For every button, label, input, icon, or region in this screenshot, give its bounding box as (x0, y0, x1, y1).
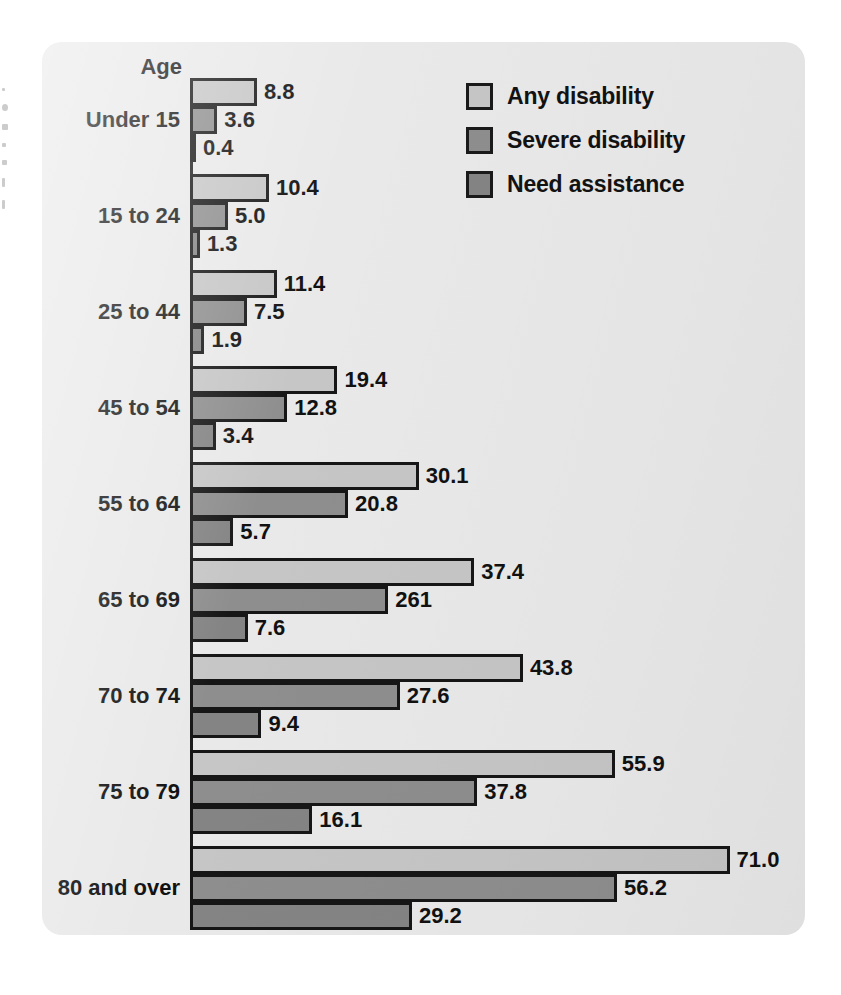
bar (190, 710, 261, 738)
bar-value-label: 261 (395, 587, 432, 613)
bar (190, 298, 247, 326)
bar (190, 394, 287, 422)
bar-row: 27.6 (190, 682, 805, 710)
bar-group: 80 and over71.056.229.2 (42, 846, 805, 930)
bar-row: 56.2 (190, 874, 805, 902)
category-label: 80 and over (42, 875, 180, 901)
bar-row: 7.5 (190, 298, 805, 326)
chart-panel: Age Any disabilitySevere disabilityNeed … (42, 42, 805, 935)
bar (190, 490, 348, 518)
bar-row: 29.2 (190, 902, 805, 930)
bar-value-label: 7.5 (254, 299, 285, 325)
bar (190, 202, 228, 230)
page-edge-artifact (0, 88, 10, 278)
bar-value-label: 37.4 (481, 559, 524, 585)
bar-group: 15 to 2410.45.01.3 (42, 174, 805, 258)
category-label: Under 15 (42, 107, 180, 133)
category-label: 75 to 79 (42, 779, 180, 805)
bar (190, 586, 388, 614)
bar-value-label: 1.9 (211, 327, 242, 353)
bar-value-label: 5.0 (235, 203, 266, 229)
bar-value-label: 8.8 (264, 79, 295, 105)
bar-row: 7.6 (190, 614, 805, 642)
bar-value-label: 56.2 (624, 875, 667, 901)
bar-value-label: 11.4 (284, 271, 326, 297)
bar (190, 614, 248, 642)
bar-group: 55 to 6430.120.85.7 (42, 462, 805, 546)
bar-group: 25 to 4411.47.51.9 (42, 270, 805, 354)
bar-row: 37.8 (190, 778, 805, 806)
bar-row: 3.6 (190, 106, 805, 134)
bar-row: 5.0 (190, 202, 805, 230)
bar-value-label: 10.4 (276, 175, 319, 201)
bar-row: 11.4 (190, 270, 805, 298)
bar-value-label: 5.7 (240, 519, 271, 545)
bar-value-label: 19.4 (344, 367, 387, 393)
bar-value-label: 7.6 (255, 615, 286, 641)
bar-row: 0.4 (190, 134, 805, 162)
bar-value-label: 55.9 (622, 751, 665, 777)
bar-row: 12.8 (190, 394, 805, 422)
bar-group: 65 to 6937.42617.6 (42, 558, 805, 642)
bar (190, 366, 337, 394)
bar-row: 8.8 (190, 78, 805, 106)
bar (190, 518, 233, 546)
bar-value-label: 3.6 (224, 107, 255, 133)
bar-row: 19.4 (190, 366, 805, 394)
bar (190, 230, 200, 258)
category-label: 45 to 54 (42, 395, 180, 421)
bar-value-label: 43.8 (530, 655, 573, 681)
bar (190, 174, 269, 202)
bar (190, 134, 196, 162)
bar-group: 70 to 7443.827.69.4 (42, 654, 805, 738)
bar-row: 261 (190, 586, 805, 614)
bar-group: 45 to 5419.412.83.4 (42, 366, 805, 450)
bar-value-label: 37.8 (484, 779, 527, 805)
bar-row: 10.4 (190, 174, 805, 202)
bar (190, 874, 617, 902)
bar (190, 270, 277, 298)
bar-row: 30.1 (190, 462, 805, 490)
bar-row: 20.8 (190, 490, 805, 518)
bar-row: 3.4 (190, 422, 805, 450)
bar-row: 1.9 (190, 326, 805, 354)
bar-row: 1.3 (190, 230, 805, 258)
bar-value-label: 0.4 (203, 135, 234, 161)
axis-header-age: Age (42, 54, 182, 80)
chart-plot-area: Age Any disabilitySevere disabilityNeed … (42, 42, 805, 935)
bar-value-label: 20.8 (355, 491, 398, 517)
bar-value-label: 3.4 (223, 423, 254, 449)
category-label: 25 to 44 (42, 299, 180, 325)
bar-value-label: 1.3 (207, 231, 238, 257)
bar-value-label: 16.1 (319, 807, 362, 833)
category-label: 15 to 24 (42, 203, 180, 229)
bar-row: 55.9 (190, 750, 805, 778)
bar-value-label: 12.8 (294, 395, 337, 421)
bar-row: 37.4 (190, 558, 805, 586)
bar-value-label: 29.2 (419, 903, 462, 929)
bar (190, 778, 477, 806)
bar-group: Under 158.83.60.4 (42, 78, 805, 162)
bar-group: 75 to 7955.937.816.1 (42, 750, 805, 834)
bar-row: 9.4 (190, 710, 805, 738)
bar (190, 422, 216, 450)
category-label: 55 to 64 (42, 491, 180, 517)
bar (190, 78, 257, 106)
bar-row: 5.7 (190, 518, 805, 546)
bar (190, 654, 523, 682)
bar-value-label: 71.0 (737, 847, 780, 873)
bar-value-label: 30.1 (426, 463, 469, 489)
bar (190, 750, 615, 778)
bar (190, 558, 474, 586)
bar-row: 43.8 (190, 654, 805, 682)
bar-row: 71.0 (190, 846, 805, 874)
bar (190, 846, 730, 874)
bar-value-label: 9.4 (268, 711, 299, 737)
bar (190, 682, 400, 710)
bar (190, 462, 419, 490)
bar (190, 806, 312, 834)
bar-value-label: 27.6 (407, 683, 450, 709)
category-label: 70 to 74 (42, 683, 180, 709)
bar (190, 326, 204, 354)
bar (190, 106, 217, 134)
